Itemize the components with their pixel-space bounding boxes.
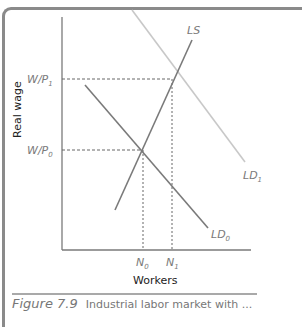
wp1-tick: W/P1 (27, 73, 53, 88)
figure-number: Figure 7.9 (12, 296, 78, 311)
n0-tick: N0 (136, 256, 149, 271)
n1-tick: N1 (166, 256, 179, 271)
caption-text: Industrial labor market with ... (86, 298, 252, 311)
ls-label: LS (187, 24, 200, 37)
ld1-label: LD1 (243, 169, 262, 184)
wp0-tick: W/P0 (27, 144, 53, 159)
ld0-label: LD0 (211, 228, 231, 243)
x-axis-title: Workers (133, 274, 178, 287)
y-axis-title: Real wage (11, 81, 24, 138)
ls-curve (115, 40, 192, 210)
ld0-curve (85, 85, 208, 228)
figure-caption: Figure 7.9Industrial labor market with .… (12, 296, 252, 311)
